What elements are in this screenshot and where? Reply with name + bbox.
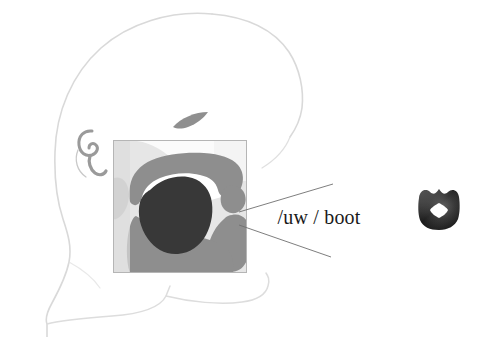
lip-shape-layer — [0, 0, 488, 337]
lip-rounding-diagram — [418, 189, 459, 230]
phonetics-figure: /uw / boot — [0, 0, 488, 337]
phoneme-label: /uw / boot — [260, 204, 378, 230]
